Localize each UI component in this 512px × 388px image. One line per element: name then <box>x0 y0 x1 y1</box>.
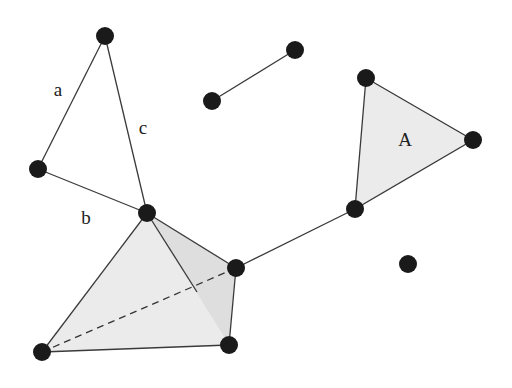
edge-a <box>38 36 105 169</box>
triangle-a-face <box>355 78 473 209</box>
edge-b <box>38 169 147 213</box>
simplicial-complex-diagram: A a c b <box>0 0 512 388</box>
triangle-a: A <box>355 78 473 209</box>
vertex-v11 <box>33 343 51 361</box>
vertex-v12 <box>220 336 238 354</box>
vertex-v2 <box>29 160 47 178</box>
vertex-v8 <box>346 200 364 218</box>
vertex-v3-apex <box>138 204 156 222</box>
edge-triangle-abc: a c b <box>38 36 147 228</box>
vertex-v7 <box>464 131 482 149</box>
vertex-v10 <box>227 259 245 277</box>
vertex-v9-isolated <box>399 255 417 273</box>
connecting-edge <box>236 209 355 268</box>
vertex-v5 <box>286 41 304 59</box>
vertex-v1 <box>96 27 114 45</box>
edge-label-a: a <box>54 79 63 100</box>
tetrahedron <box>42 213 236 352</box>
triangle-a-label: A <box>398 129 412 150</box>
vertex-v4 <box>203 92 221 110</box>
segment-edge <box>212 50 295 101</box>
vertex-v6 <box>357 69 375 87</box>
edge-label-c: c <box>139 117 147 138</box>
edge-label-b: b <box>81 207 91 228</box>
